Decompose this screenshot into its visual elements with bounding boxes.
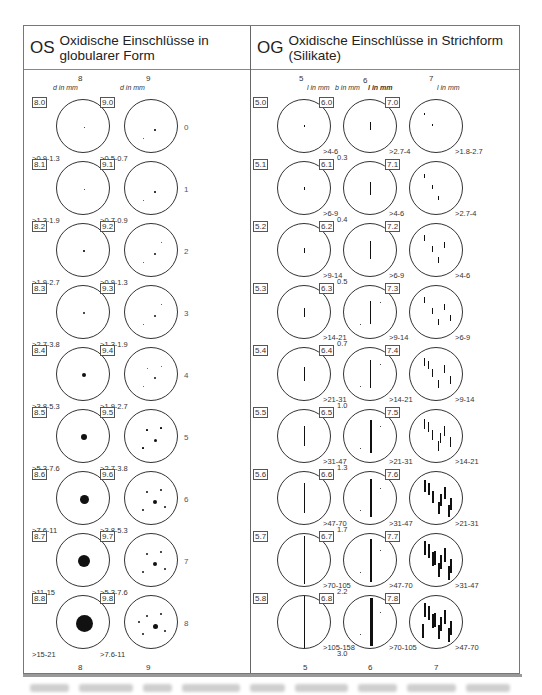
- inclusion-streak: [438, 196, 439, 200]
- inclusion-streak: [448, 566, 450, 579]
- inclusion-streak: [438, 380, 439, 388]
- field-circle: [409, 285, 463, 339]
- field-circle: [124, 533, 178, 587]
- inclusion-dot: [360, 324, 361, 325]
- plate-code: 6.8: [319, 593, 334, 604]
- inclusion-dot: [380, 488, 381, 489]
- field-circle: [124, 471, 178, 525]
- inclusion-streak: [444, 242, 445, 247]
- column-number-8: 8: [78, 74, 82, 83]
- inclusion-streak: [444, 487, 446, 499]
- field-circle: [409, 347, 463, 401]
- inclusion-streak: [428, 422, 429, 432]
- inclusion-dot: [142, 571, 144, 573]
- inclusion-streak: [450, 376, 451, 384]
- inclusion-dot: [142, 509, 144, 511]
- plate-code: 8.5: [32, 407, 47, 418]
- plate-code: 7.7: [385, 531, 400, 542]
- inclusion-streak: [370, 122, 371, 130]
- inclusion-streak: [424, 113, 425, 115]
- plate-9-7: [124, 533, 178, 587]
- plate-code: 6.4: [319, 345, 334, 356]
- row-number: 3: [184, 309, 188, 318]
- inclusion-streak: [428, 544, 430, 557]
- plate-code: 7.1: [385, 159, 400, 170]
- plate-code: 8.7: [32, 531, 47, 542]
- size-range: >9-14: [389, 333, 408, 342]
- inclusion-streak: [440, 555, 442, 568]
- size-range: >15-21: [32, 650, 56, 659]
- row-number: 8: [184, 619, 188, 628]
- inclusion-streak: [428, 361, 429, 369]
- width-label: 1.0: [337, 401, 347, 410]
- inclusion-dot: [78, 555, 90, 567]
- table-shadow: [23, 674, 522, 677]
- footer-number-7: 7: [434, 663, 438, 672]
- plate-9-2: [124, 223, 178, 277]
- inclusion-dot: [146, 553, 148, 555]
- plate-code: 8.3: [32, 283, 47, 294]
- inclusion-dot: [380, 612, 381, 613]
- inclusion-streak: [424, 297, 425, 304]
- inclusion-streak: [444, 548, 446, 561]
- header-og-code: OG: [257, 38, 283, 58]
- size-range: >1.8-2.7: [455, 147, 483, 156]
- inclusion-streak: [304, 308, 305, 317]
- inclusion-dot: [154, 315, 156, 317]
- plate-7-5: [409, 409, 463, 463]
- plate-code: 9.5: [100, 407, 115, 418]
- inclusion-streak: [424, 541, 426, 554]
- plate-code: 6.6: [319, 469, 334, 480]
- inclusion-streak: [370, 420, 372, 453]
- inclusion-streak: [444, 304, 445, 311]
- inclusion-dot: [154, 191, 156, 193]
- plate-9-3: [124, 285, 178, 339]
- inclusion-streak: [424, 235, 425, 240]
- og-panel: 5 6 7 l in mm b in mm l in mm l in mm 5.…: [251, 69, 521, 674]
- plate-code: 6.3: [319, 283, 334, 294]
- inclusion-dot: [154, 439, 157, 442]
- inclusion-streak: [434, 551, 436, 564]
- inclusion-dot: [164, 568, 166, 570]
- plate-code: 5.5: [253, 407, 268, 418]
- row-number: 2: [184, 247, 188, 256]
- plate-code: 5.4: [253, 345, 268, 356]
- unit-label-b: b in mm: [335, 84, 360, 91]
- field-circle: [124, 99, 178, 153]
- plate-code: 7.3: [385, 283, 400, 294]
- plate-code: 5.2: [253, 221, 268, 232]
- inclusion-streak: [432, 369, 433, 377]
- inclusion-dot: [83, 312, 86, 315]
- inclusion-dot: [82, 373, 86, 377]
- inclusion-dot: [76, 615, 93, 632]
- inclusion-dot: [160, 489, 162, 491]
- plate-9-8: [124, 595, 178, 649]
- plate-7-8: [409, 595, 463, 649]
- inclusion-dot: [380, 550, 381, 551]
- plate-code: 5.3: [253, 283, 268, 294]
- inclusion-dot: [142, 447, 143, 448]
- inclusion-dot: [164, 506, 166, 508]
- inclusion-streak: [432, 308, 433, 315]
- size-range: >2.7-4: [455, 209, 476, 218]
- inclusion-dot: [380, 426, 381, 427]
- plate-code: 9.8: [100, 593, 115, 604]
- plate-code: 7.2: [385, 221, 400, 232]
- inclusion-dot: [153, 562, 158, 567]
- plate-code: 5.1: [253, 159, 268, 170]
- inclusion-streak: [424, 603, 426, 618]
- inclusion-dot: [154, 129, 156, 131]
- plate-7-3: [409, 285, 463, 339]
- plate-code: 6.1: [319, 159, 334, 170]
- plate-code: 5.0: [253, 97, 268, 108]
- plate-9-1: [124, 161, 178, 215]
- plate-code: 9.0: [100, 97, 115, 108]
- inclusion-streak: [440, 433, 441, 443]
- field-circle: [124, 161, 178, 215]
- width-label: 0.7: [337, 339, 347, 348]
- inclusion-streak: [424, 358, 425, 366]
- inclusion-streak: [370, 539, 372, 582]
- inclusion-dot: [360, 510, 361, 511]
- field-circle: [124, 285, 178, 339]
- plate-code: 5.7: [253, 531, 268, 542]
